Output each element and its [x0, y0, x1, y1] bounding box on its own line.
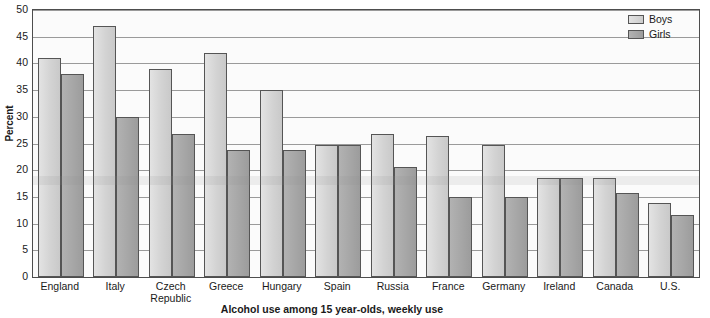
bar-girls-russia	[394, 167, 417, 277]
bar-boys-england	[38, 58, 61, 277]
y-tick-label: 25	[6, 138, 28, 148]
bar-girls-italy	[116, 117, 139, 277]
x-tick-label: Ireland	[532, 280, 588, 292]
y-axis-tick-labels: 05101520253035404550	[6, 0, 28, 278]
legend-item-boys: Boys	[628, 13, 704, 26]
y-tick-label: 10	[6, 218, 28, 228]
chart-legend: BoysGirls	[628, 13, 704, 43]
bar-girls-ireland	[560, 178, 583, 277]
bar-boys-italy	[93, 26, 116, 277]
x-tick-label: England	[32, 280, 88, 292]
plot-area	[32, 9, 700, 278]
bar-girls-u.s.	[671, 215, 694, 277]
x-axis-title: Alcohol use among 15 year-olds, weekly u…	[32, 303, 632, 315]
bar-girls-england	[61, 74, 84, 277]
x-tick-label: Czech Republic	[143, 280, 199, 304]
bar-boys-czech-republic	[149, 69, 172, 277]
y-tick-label: 20	[6, 164, 28, 174]
y-tick-label: 5	[6, 244, 28, 254]
legend-item-girls: Girls	[628, 28, 704, 41]
bar-chart: Percent 05101520253035404550 BoysGirls E…	[0, 0, 710, 318]
legend-label: Boys	[649, 14, 672, 25]
x-tick-label: France	[421, 280, 477, 292]
x-tick-label: Canada	[587, 280, 643, 292]
y-tick-label: 30	[6, 111, 28, 121]
x-tick-label: Italy	[88, 280, 144, 292]
bar-boys-ireland	[537, 178, 560, 277]
y-tick-label: 15	[6, 191, 28, 201]
x-tick-label: Russia	[365, 280, 421, 292]
bar-girls-czech-republic	[172, 134, 195, 277]
bar-girls-spain	[338, 145, 361, 277]
bar-girls-greece	[227, 150, 250, 277]
x-tick-label: Hungary	[254, 280, 310, 292]
x-tick-label: Germany	[476, 280, 532, 292]
legend-label: Girls	[649, 29, 671, 40]
y-tick-label: 40	[6, 57, 28, 67]
bar-boys-hungary	[260, 90, 283, 277]
bar-boys-u.s.	[648, 203, 671, 277]
bar-boys-greece	[204, 53, 227, 277]
bar-boys-canada	[593, 178, 616, 277]
y-tick-label: 35	[6, 84, 28, 94]
x-tick-label: Greece	[199, 280, 255, 292]
x-tick-label: U.S.	[643, 280, 699, 292]
bar-boys-france	[426, 136, 449, 278]
bar-boys-germany	[482, 145, 505, 277]
y-tick-label: 50	[6, 4, 28, 14]
bar-girls-hungary	[283, 150, 306, 277]
y-tick-label: 0	[6, 271, 28, 281]
x-tick-label: Spain	[310, 280, 366, 292]
legend-swatch-girls	[628, 30, 644, 39]
bar-boys-russia	[371, 134, 394, 277]
bars-layer	[33, 10, 699, 277]
y-tick-label: 45	[6, 31, 28, 41]
bar-girls-germany	[505, 197, 528, 277]
legend-swatch-boys	[628, 15, 644, 24]
bar-girls-france	[449, 197, 472, 277]
bar-boys-spain	[315, 145, 338, 277]
bar-girls-canada	[616, 193, 639, 277]
